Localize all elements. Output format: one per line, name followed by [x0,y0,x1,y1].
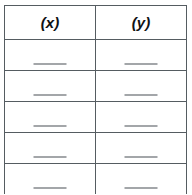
table-row [5,133,187,164]
cell-y[interactable] [96,40,187,71]
xy-value-table: (x) (y) [4,5,187,194]
table-header-row: (x) (y) [5,6,187,40]
screenshot-canvas: (x) (y) [0,0,192,194]
answer-blank-rule-icon [34,94,67,96]
table-row [5,102,187,133]
cell-y[interactable] [96,102,187,133]
cell-y[interactable] [96,71,187,102]
table-header: (x) (y) [5,6,187,40]
table-row [5,164,187,195]
answer-blank-rule-icon [125,156,158,158]
cell-y[interactable] [96,133,187,164]
answer-blank-rule-icon [34,63,67,65]
column-header-x: (x) [5,6,96,40]
answer-blank-rule-icon [34,187,67,189]
column-header-y: (y) [96,6,187,40]
table-body [5,40,187,195]
cell-x[interactable] [5,133,96,164]
cell-x[interactable] [5,40,96,71]
answer-blank-rule-icon [125,125,158,127]
answer-blank-rule-icon [125,63,158,65]
table-row [5,71,187,102]
cell-x[interactable] [5,164,96,195]
answer-blank-rule-icon [34,156,67,158]
cell-x[interactable] [5,71,96,102]
table-row [5,40,187,71]
cell-y[interactable] [96,164,187,195]
answer-blank-rule-icon [125,94,158,96]
answer-blank-rule-icon [125,187,158,189]
answer-blank-rule-icon [34,125,67,127]
cell-x[interactable] [5,102,96,133]
